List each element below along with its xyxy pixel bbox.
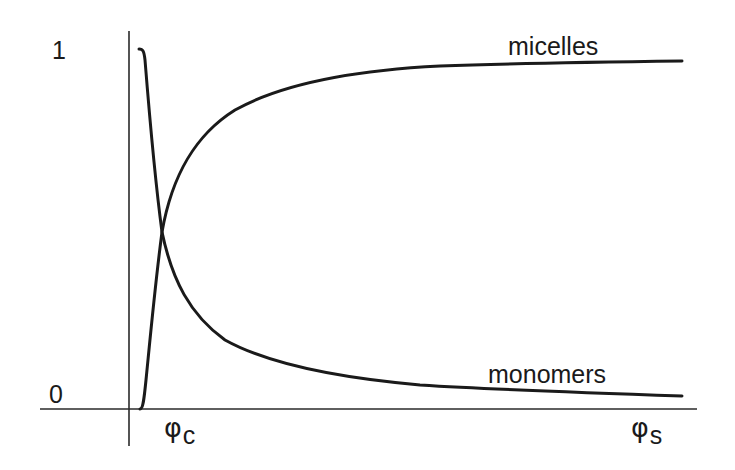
y-tick-label-one: 1: [52, 38, 66, 63]
monomers-label: monomers: [488, 362, 606, 387]
monomers-curve: [139, 49, 682, 396]
x-tick-label-phi-c: φc: [164, 414, 195, 441]
phi-c-subscript: c: [183, 421, 196, 449]
micelles-label: micelles: [508, 34, 598, 59]
phi-symbol: φ: [164, 412, 182, 443]
phi-s-subscript: s: [650, 421, 663, 449]
y-tick-label-zero: 0: [49, 382, 63, 407]
chart-canvas: [0, 0, 735, 470]
micelles-curve: [140, 61, 682, 409]
phi-symbol: φ: [631, 412, 649, 443]
x-tick-label-phi-s: φs: [631, 414, 662, 441]
